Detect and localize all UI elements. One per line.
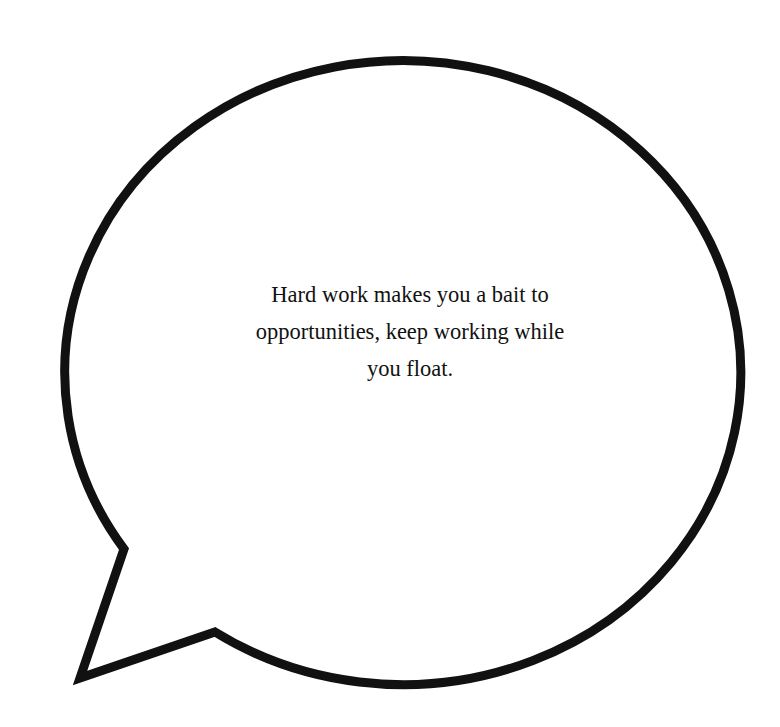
- quote-line-2: opportunities, keep working while: [240, 313, 580, 350]
- quote-line-3: you float.: [240, 350, 580, 387]
- quote-line-1: Hard work makes you a bait to: [240, 276, 580, 313]
- quote-text: Hard work makes you a bait to opportunit…: [240, 276, 580, 387]
